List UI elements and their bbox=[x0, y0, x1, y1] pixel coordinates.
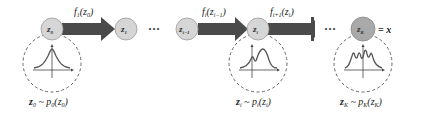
caption-zK: zK ~ pK(zK) bbox=[339, 96, 383, 108]
plot-multimodal bbox=[344, 44, 385, 78]
arrow-fi1: fi+1(zi) bbox=[268, 6, 315, 41]
plot-bimodal bbox=[239, 44, 280, 78]
node-zK: zK bbox=[351, 17, 375, 41]
plot-unimodal bbox=[33, 44, 74, 78]
equals-x-label: = x bbox=[378, 24, 391, 35]
node-zi: zi bbox=[247, 18, 269, 40]
ellipsis-1: ··· bbox=[148, 22, 160, 36]
arrow-fi1-label: fi+1(zi) bbox=[270, 6, 294, 18]
caption-z0: z0 ~ p0(z0) bbox=[28, 96, 69, 108]
arrow-fi: fi(zi−1) bbox=[198, 6, 248, 41]
arrow-f1: f1(z0) bbox=[62, 6, 115, 41]
node-z0: z0 bbox=[41, 18, 63, 40]
node-z1: z1 bbox=[115, 18, 137, 40]
ellipsis-2: ··· bbox=[324, 22, 336, 36]
caption-zi: zi ~ pi(zi) bbox=[235, 96, 272, 108]
dist-circle-zi bbox=[229, 34, 287, 92]
flow-diagram: f1(z0) fi(zi−1) fi+1(zi) z0 z1 ··· zi−1 bbox=[0, 0, 422, 119]
node-zim1: zi−1 bbox=[176, 18, 198, 40]
arrow-fi-label: fi(zi−1) bbox=[202, 6, 226, 18]
arrow-f1-label: f1(z0) bbox=[74, 6, 94, 18]
